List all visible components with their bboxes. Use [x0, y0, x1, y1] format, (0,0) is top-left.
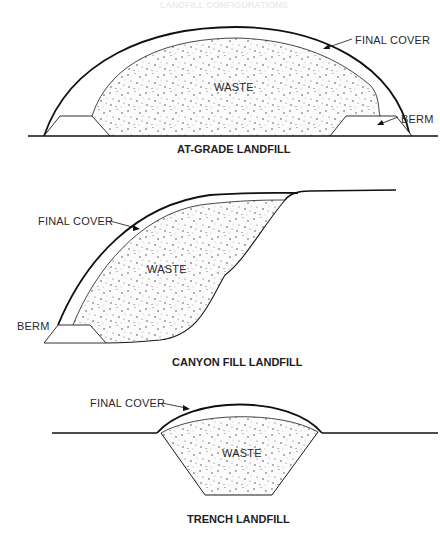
- ground-surface-line: [285, 190, 396, 200]
- at-grade-landfill: FINAL COVER WASTE BERM AT-GRADE LANDFILL: [28, 27, 438, 155]
- arrowhead-icon: [183, 405, 190, 411]
- label-waste: WASTE: [222, 447, 262, 459]
- canyon-fill-landfill: FINAL COVER WASTE BERM CANYON FILL LANDF…: [17, 190, 396, 368]
- label-final-cover: FINAL COVER: [38, 215, 113, 227]
- caption-canyon: CANYON FILL LANDFILL: [172, 356, 303, 368]
- cover-leader: [110, 221, 136, 228]
- arrowhead-icon: [323, 44, 330, 49]
- label-berm: BERM: [401, 113, 434, 125]
- trench-landfill: FINAL COVER WASTE TRENCH LANDFILL: [52, 397, 438, 525]
- label-waste: WASTE: [214, 81, 254, 93]
- caption-trench: TRENCH LANDFILL: [187, 513, 290, 525]
- label-berm: BERM: [17, 320, 50, 332]
- cover-leader: [162, 403, 186, 408]
- arrowhead-icon: [133, 225, 140, 231]
- label-final-cover: FINAL COVER: [90, 397, 165, 409]
- cover-leader: [326, 39, 352, 48]
- label-waste: WASTE: [147, 263, 187, 275]
- caption-at-grade: AT-GRADE LANDFILL: [177, 143, 291, 155]
- landfill-diagram: LANDFILL CONFIGURATIONS FINAL COVER WAST…: [0, 0, 440, 534]
- label-final-cover: FINAL COVER: [355, 34, 430, 46]
- faint-title: LANDFILL CONFIGURATIONS: [160, 0, 288, 10]
